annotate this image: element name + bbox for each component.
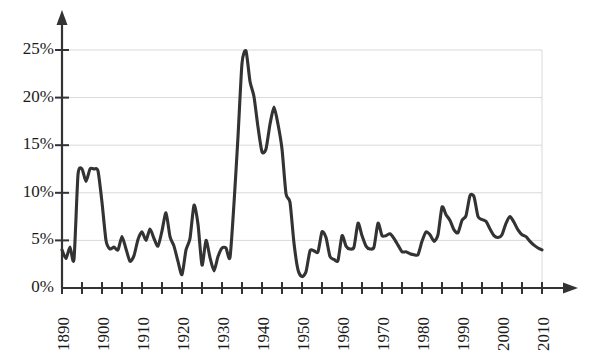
x-tick-label: 1930	[214, 317, 234, 351]
y-tick-label: 5%	[0, 229, 54, 249]
y-tick-label: 20%	[0, 87, 54, 107]
x-tick-label: 1990	[454, 317, 474, 351]
x-tick-label: 1910	[134, 317, 154, 351]
y-tick-label: 15%	[0, 134, 54, 154]
unemployment-rate-chart: 0%5%10%15%20%25% 18901900191019201930194…	[0, 0, 589, 359]
x-tick-label: 2000	[494, 317, 514, 351]
x-tick-label: 1890	[54, 317, 74, 351]
y-axis-arrowhead	[57, 10, 68, 25]
y-tick-label: 10%	[0, 182, 54, 202]
y-tick-label: 0%	[0, 277, 54, 297]
x-tick-label: 1900	[94, 317, 114, 351]
x-tick-label: 1980	[414, 317, 434, 351]
chart-canvas	[0, 0, 589, 359]
x-tick-label: 2010	[534, 317, 554, 351]
unemployment-line-series	[62, 50, 542, 276]
x-axis-arrowhead	[563, 283, 578, 294]
x-tick-label: 1970	[374, 317, 394, 351]
x-tick-label: 1920	[174, 317, 194, 351]
x-tick-label: 1950	[294, 317, 314, 351]
y-tick-label: 25%	[0, 39, 54, 59]
x-tick-label: 1940	[254, 317, 274, 351]
x-tick-label: 1960	[334, 317, 354, 351]
